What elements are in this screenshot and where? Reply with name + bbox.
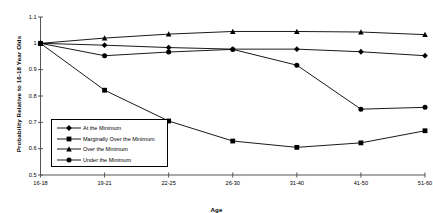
legend-marker-circle-icon — [56, 155, 82, 165]
legend-item: Marginally Over the Minimum — [56, 134, 163, 145]
x-axis-title: Age — [0, 198, 433, 213]
legend-marker-triangle-icon — [56, 144, 82, 154]
series-3 — [38, 41, 428, 112]
x-tick-label: 31-40 — [277, 180, 317, 186]
x-tick-label: 41-50 — [341, 180, 381, 186]
legend-marker-square-icon — [56, 134, 82, 144]
legend-item-label: Marginally Over the Minimum — [83, 136, 155, 142]
y-axis-title-text: Probability Relative to 16-18 Year Olds — [15, 36, 22, 153]
x-tick-label: 51-60 — [405, 180, 433, 186]
legend-item-label: Under the Minimum — [83, 157, 131, 163]
line-chart: 0.50.60.70.80.911.1 16-1819-2122-2526-30… — [0, 0, 433, 213]
y-axis-title: Probability Relative to 16-18 Year Olds — [12, 14, 24, 174]
legend-marker-diamond-icon — [56, 123, 82, 133]
legend-item: Over the Minimum — [56, 144, 163, 155]
legend-item-label: Over the Minimum — [83, 146, 128, 152]
legend-item: At the Minimum — [56, 123, 163, 134]
x-tick-label: 16-18 — [21, 180, 61, 186]
legend-item-label: At the Minimum — [83, 125, 121, 131]
legend-item: Under the Minimum — [56, 155, 163, 166]
legend: At the MinimumMarginally Over the Minimu… — [51, 119, 168, 167]
x-axis-title-text: Age — [211, 206, 223, 213]
series-2 — [38, 29, 428, 46]
x-tick-label: 26-30 — [213, 180, 253, 186]
x-tick-label: 19-21 — [85, 180, 125, 186]
x-tick-label: 22-25 — [149, 180, 189, 186]
